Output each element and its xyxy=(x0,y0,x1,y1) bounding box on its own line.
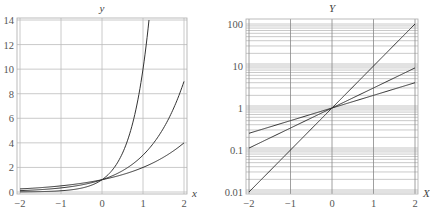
y-tick-label: 4 xyxy=(9,138,15,149)
x-tick-label: −1 xyxy=(285,198,296,209)
x-tick-label: −1 xyxy=(55,198,66,209)
chart-figure: 02468101214−2−1012yx 0.010.1110100−2−101… xyxy=(0,0,430,219)
y-tick-label: 8 xyxy=(9,89,14,100)
y-axis-label: y xyxy=(99,2,105,14)
y-tick-label: 0.1 xyxy=(230,145,243,156)
y-tick-label: 14 xyxy=(4,15,15,26)
x-axis-label: X xyxy=(422,187,430,199)
x-tick-label: 1 xyxy=(371,198,376,209)
x-tick-label: −2 xyxy=(243,198,254,209)
log-chart: 0.010.1110100−2−1012YX xyxy=(225,2,430,209)
x-tick-label: 0 xyxy=(99,198,104,209)
x-tick-label: 2 xyxy=(181,198,186,209)
x-tick-label: −2 xyxy=(14,198,25,209)
y-tick-label: 2 xyxy=(9,162,14,173)
y-tick-label: 10 xyxy=(4,64,15,75)
x-axis-label: x xyxy=(191,187,197,199)
x-tick-label: 2 xyxy=(412,198,417,209)
y-tick-label: 1 xyxy=(238,103,243,114)
y-tick-label: 0.01 xyxy=(225,187,243,198)
y-tick-label: 0 xyxy=(9,187,14,198)
y-tick-label: 100 xyxy=(227,19,243,30)
linear-chart: 02468101214−2−1012yx xyxy=(4,2,198,209)
y-tick-label: 6 xyxy=(9,113,14,124)
y-tick-label: 12 xyxy=(4,40,15,51)
y-tick-label: 10 xyxy=(233,61,244,72)
y-axis-label: Y xyxy=(329,2,337,14)
x-tick-label: 0 xyxy=(329,198,334,209)
x-tick-label: 1 xyxy=(140,198,145,209)
